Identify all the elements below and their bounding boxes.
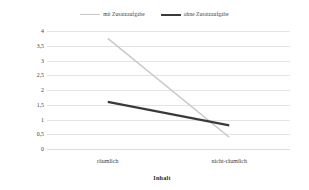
legend-label-mit-zusatzaufgabe: mit Zusatzaufgabe [103, 11, 145, 18]
y-axis-tick-label: 1 [4, 117, 44, 123]
y-axis-tick-labels: 43,532,521,510,50 [0, 31, 44, 149]
y-axis-tick-label: 3 [4, 58, 44, 64]
plot-area [47, 31, 290, 149]
y-axis-tick-label: 2,5 [4, 72, 44, 78]
y-axis-tick-label: 4 [4, 28, 44, 34]
legend-label-ohne-zusatzaufgabe: ohne Zusatzaufgabe [184, 11, 229, 18]
y-axis-tick-label: 3,5 [4, 43, 44, 49]
legend-line-swatch-dark-icon [161, 14, 181, 16]
chart-legend: mit Zusatzaufgabe ohne Zusatzaufgabe [0, 8, 309, 21]
gridline [47, 149, 290, 150]
x-axis-tick-labels: räumlichnicht-räumlich [47, 157, 290, 169]
legend-entry-mit-zusatzaufgabe[interactable]: mit Zusatzaufgabe [80, 11, 145, 18]
y-axis-tick-label: 0 [4, 146, 44, 152]
x-axis-tick-label: räumlich [63, 157, 153, 165]
x-axis-tick-label: nicht-räumlich [184, 157, 274, 165]
y-axis-tick-label: 1,5 [4, 102, 44, 108]
x-axis-title: Inhalt [34, 174, 290, 181]
series-lines [47, 31, 290, 149]
legend-line-swatch-light-icon [80, 14, 100, 15]
series-line [108, 102, 230, 126]
legend-entry-ohne-zusatzaufgabe[interactable]: ohne Zusatzaufgabe [161, 11, 229, 18]
line-chart-figure: mit Zusatzaufgabe ohne Zusatzaufgabe Mit… [0, 0, 309, 190]
y-axis-tick-label: 2 [4, 87, 44, 93]
y-axis-tick-label: 0,5 [4, 131, 44, 137]
